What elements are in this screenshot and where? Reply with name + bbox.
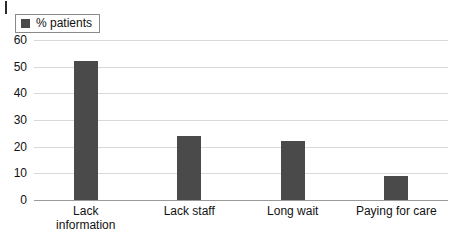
corner-tick-mark [5, 1, 7, 14]
category-label-line: Lack [34, 204, 138, 218]
plot-area: 0102030405060 [34, 40, 448, 200]
x-axis-category-label: Paying for care [345, 204, 449, 218]
x-axis-labels: LackinformationLack staffLong waitPaying… [34, 204, 448, 244]
legend-swatch-icon [21, 19, 30, 28]
category-label-line: Paying for care [345, 204, 449, 218]
category-label-line: information [34, 218, 138, 232]
bar [74, 61, 98, 200]
y-axis-tick-label: 20 [14, 140, 27, 154]
bar-slot [34, 40, 138, 200]
x-axis-category-label: Lackinformation [34, 204, 138, 232]
bar-chart: % patients 0102030405060 Lackinformation… [0, 0, 460, 246]
bar [281, 141, 305, 200]
y-axis-tick-label: 60 [14, 33, 27, 47]
x-axis-line: 0 [34, 200, 448, 201]
y-axis-tick-label: 10 [14, 166, 27, 180]
y-axis-tick-label: 50 [14, 60, 27, 74]
bar-slot [138, 40, 242, 200]
y-axis-tick-label: 30 [14, 113, 27, 127]
chart-legend: % patients [15, 14, 100, 33]
x-axis-category-label: Long wait [241, 204, 345, 218]
bar-group [34, 40, 448, 200]
category-label-line: Lack staff [138, 204, 242, 218]
category-label-line: Long wait [241, 204, 345, 218]
x-axis-category-label: Lack staff [138, 204, 242, 218]
bar-slot [241, 40, 345, 200]
y-axis-tick-label: 0 [20, 193, 27, 207]
legend-label: % patients [36, 17, 92, 29]
bar [177, 136, 201, 200]
bar [384, 176, 408, 200]
y-axis-tick-label: 40 [14, 86, 27, 100]
bar-slot [345, 40, 449, 200]
